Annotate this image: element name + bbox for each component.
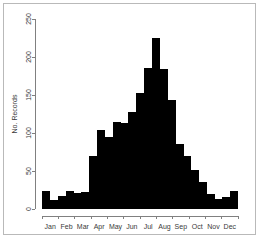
y-tick-label: 50: [25, 167, 32, 175]
histogram-bar: [50, 200, 58, 209]
histogram-bar: [58, 196, 66, 209]
histogram-bar: [66, 191, 74, 209]
histogram-bar: [230, 191, 238, 209]
histogram-bar: [89, 156, 97, 209]
x-tick-label: Dec: [224, 223, 237, 230]
histogram-bar: [97, 130, 105, 209]
y-tick-label: 200: [25, 51, 32, 63]
histogram-bar: [152, 38, 160, 209]
y-axis-title: No. Records: [11, 94, 18, 133]
histogram-bar: [136, 93, 144, 209]
histogram-bar: [167, 100, 175, 209]
x-tick-label: Jul: [144, 223, 153, 230]
x-tick-label: Nov: [207, 223, 220, 230]
x-tick-label: Mar: [77, 223, 90, 230]
x-axis: [42, 216, 238, 219]
x-tick-label: Apr: [94, 223, 106, 231]
y-axis-title-text: No. Records: [11, 94, 18, 133]
histogram-chart: 050100150200250 JanFebMarAprMayJunJulAug…: [0, 0, 259, 238]
histogram-bar: [144, 68, 152, 209]
y-axis: [32, 19, 35, 209]
histogram-bar: [175, 144, 183, 209]
histogram-bar: [113, 122, 121, 209]
histogram-bar: [222, 197, 230, 209]
histogram-bar: [191, 170, 199, 209]
histogram-bar: [120, 123, 128, 209]
x-tick-label: Jun: [126, 223, 137, 230]
histogram-bar: [105, 137, 113, 209]
x-tick-label: Oct: [192, 223, 203, 230]
x-tick-label: Aug: [158, 223, 171, 231]
x-tick-label: Jan: [45, 223, 56, 230]
y-tick-label: 250: [25, 13, 32, 25]
y-tick-label: 0: [25, 207, 32, 211]
y-tick-labels: 050100150200250: [25, 13, 32, 211]
x-tick-labels: JanFebMarAprMayJunJulAugSepOctNovDec: [45, 223, 237, 231]
histogram-bar: [81, 192, 89, 209]
histogram-bar: [42, 191, 50, 209]
x-tick-label: May: [109, 223, 123, 231]
plot-area: 050100150200250 JanFebMarAprMayJunJulAug…: [0, 0, 259, 238]
histogram-bar: [73, 193, 81, 209]
y-tick-label: 100: [25, 127, 32, 139]
figure-container: 050100150200250 JanFebMarAprMayJunJulAug…: [0, 0, 259, 238]
histogram-bar: [128, 112, 136, 209]
x-tick-label: Sep: [175, 223, 188, 231]
bars-group: [42, 38, 238, 209]
x-tick-label: Feb: [60, 223, 72, 230]
histogram-bar: [199, 182, 207, 209]
histogram-bar: [214, 199, 222, 209]
histogram-bar: [207, 194, 215, 209]
histogram-bar: [183, 156, 191, 209]
y-tick-label: 150: [25, 89, 32, 101]
histogram-bar: [160, 69, 168, 209]
